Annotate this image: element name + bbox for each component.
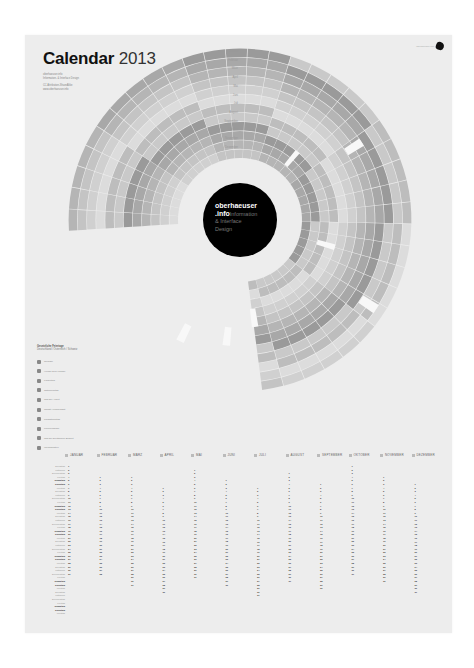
- spiral-segment: [96, 193, 107, 211]
- month-label: JULI: [259, 453, 266, 457]
- month-label: AUGUST: [291, 453, 305, 457]
- ring-month-label: April: [232, 75, 238, 79]
- ring-month-label: Dezember: [225, 145, 238, 149]
- spiral-segment: [393, 203, 402, 223]
- spiral-segment: [245, 95, 261, 105]
- spiral-segment: [310, 222, 319, 232]
- day-entry: ·31: [65, 573, 87, 577]
- month-day-column: ·1·2·3·4·5·6·7·8·9·10·11·12·13·14·15·16·…: [254, 487, 276, 598]
- legend-item: Karfreitag: [37, 376, 147, 386]
- legend-label: Karfreitag: [44, 379, 55, 382]
- center-sub: Information: [230, 211, 258, 217]
- month-label: MAI: [196, 453, 202, 457]
- month-header: APRIL: [160, 453, 175, 457]
- spiral-segment: [124, 213, 133, 228]
- spiral-segment: [318, 199, 328, 211]
- spiral-segment: [213, 95, 229, 106]
- day-entry: ·31: [412, 591, 434, 595]
- ring-month-label: August: [229, 110, 238, 114]
- month-day-column: ·1·2·3·4·5·6·7·8·9·10·11·12·13·14·15·16·…: [286, 472, 308, 583]
- holiday-icon: [37, 360, 41, 364]
- spiral-segment: [215, 104, 230, 115]
- month-label: OKTOBER: [354, 453, 370, 457]
- legend-subheading: Deutschland / Österreich / Schweiz: [37, 348, 147, 351]
- spiral-segment: [151, 214, 160, 225]
- ring-month-label: Februar: [228, 58, 238, 62]
- holiday-icon: [37, 369, 41, 373]
- spiral-segment: [133, 213, 142, 226]
- day-entry: ·30: [160, 591, 182, 595]
- spiral-segment: [244, 122, 257, 132]
- spiral-segment: [153, 192, 164, 204]
- month-label: NOVEMBER: [385, 453, 404, 457]
- month-header: JUNI: [223, 453, 235, 457]
- month-day-column: ·1·2·3·4·5·6·7·8·9·10·11·12·13·14·15·16·…: [223, 479, 245, 587]
- spiral-segment: [375, 205, 384, 223]
- month-header: FEBRUAR: [97, 453, 118, 457]
- day-entry: ·28: [97, 573, 119, 577]
- day-entry: ·30: [317, 587, 339, 591]
- spiral-segment: [160, 215, 169, 225]
- legend-item: Fronleichnam: [37, 424, 147, 434]
- legend-item: Pfingstmontag: [37, 414, 147, 424]
- holiday-icon: [37, 417, 41, 421]
- holiday-icon: [37, 436, 41, 440]
- month-label: DEZEMBER: [417, 453, 435, 457]
- day-entry: ·31: [128, 584, 150, 588]
- spiral-segment: [133, 200, 143, 214]
- spiral-segment: [247, 49, 269, 60]
- legend-item: Tag der Deutschen Einheit: [37, 434, 147, 444]
- spiral-segment: [336, 195, 347, 209]
- spiral-segment: [212, 86, 229, 97]
- spiral-segment: [302, 213, 311, 222]
- month-header: SEPTEMBER: [317, 453, 342, 457]
- legend-label: Pfingstmontag: [44, 418, 60, 421]
- spiral-segment: [308, 231, 318, 242]
- month-header: JULI: [254, 453, 266, 457]
- month-day-column: ·1·2·3·4·5·6·7·8·9·10·11·12·13·14·15·16·…: [317, 483, 339, 591]
- month-bullet-icon: [380, 454, 383, 457]
- spiral-segment: [347, 208, 356, 223]
- month-day-column: ·1·2·3·4·5·6·7·8·9·10·11·12·13·14·15·16·…: [128, 476, 150, 587]
- spiral-segment: [250, 298, 262, 308]
- spiral-segment: [114, 212, 123, 228]
- spiral-segment: [142, 214, 151, 226]
- spiral-segment: [329, 222, 339, 234]
- ring-month-label: September: [224, 119, 238, 123]
- spiral-segment: [105, 212, 114, 229]
- spiral-segment: [246, 85, 263, 95]
- month-bullet-icon: [223, 454, 226, 457]
- holiday-icon: [37, 379, 41, 383]
- spiral-segment: [169, 216, 178, 225]
- spiral-segment: [222, 327, 231, 346]
- center-line1: oberhaeuser: [215, 202, 279, 210]
- spiral-segment: [245, 104, 260, 114]
- month-header: OKTOBER: [349, 453, 370, 457]
- month-header: NOVEMBER: [380, 453, 404, 457]
- month-headers: JANUARFEBRUARMÄRZAPRILMAIJUNIJULIAUGUSTS…: [65, 453, 444, 463]
- spiral-segment: [78, 210, 87, 230]
- spiral-segment: [124, 198, 134, 213]
- day-entry: ·31: [349, 573, 371, 577]
- month-day-column: ·1·2·3·4·5·6·7·8·9·10·11·12·13·14·15·16·…: [160, 487, 182, 595]
- month-bullet-icon: [65, 454, 68, 457]
- ring-month-label: Oktober: [228, 127, 238, 131]
- month-header: JANUAR: [65, 453, 83, 457]
- spiral-segment: [170, 207, 180, 216]
- month-bullet-icon: [128, 454, 131, 457]
- day-entry: ·31: [191, 576, 213, 580]
- spiral-segment: [87, 210, 96, 229]
- center-badge: oberhaeuser .infoInformation & Interface…: [215, 202, 279, 233]
- spiral-segment: [106, 194, 117, 211]
- spiral-segment: [234, 149, 243, 158]
- spiral-segment: [225, 150, 234, 160]
- center-line2: .info: [215, 210, 230, 217]
- ring-month-label: Juni: [233, 93, 239, 97]
- day-entry: ·30: [223, 584, 245, 588]
- spiral-segment: [320, 211, 329, 222]
- spiral-segment: [160, 205, 170, 215]
- spiral-segment: [319, 222, 328, 233]
- spiral-segment: [246, 76, 264, 86]
- spiral-segment: [244, 131, 255, 141]
- month-header: DEZEMBER: [412, 453, 435, 457]
